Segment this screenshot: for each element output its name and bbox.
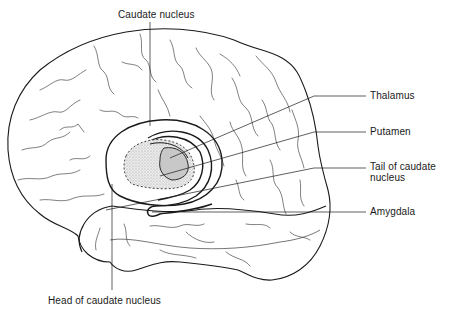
label-head-of-caudate-nucleus: Head of caudate nucleus (48, 295, 161, 306)
label-amygdala: Amygdala (370, 206, 415, 217)
label-tail-of-caudate-nucleus: Tail of caudate nucleus (370, 161, 436, 183)
label-caudate-nucleus: Caudate nucleus (118, 9, 195, 20)
brain-diagram: Caudate nucleus Thalamus Putamen Tail of… (0, 0, 461, 318)
label-thalamus: Thalamus (370, 90, 415, 101)
label-putamen: Putamen (370, 126, 411, 137)
brain-illustration (0, 0, 461, 318)
